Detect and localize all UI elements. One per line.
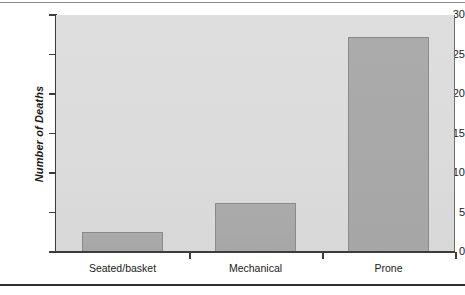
x-axis-tick-mark [189, 252, 191, 259]
x-axis-tick-mark [455, 252, 457, 259]
x-axis-tick-label: Seated/basket [89, 262, 156, 274]
bar [82, 232, 163, 252]
x-axis-tick-label: Mechanical [229, 262, 282, 274]
bar [215, 203, 296, 252]
x-axis-tick-label: Prone [374, 262, 402, 274]
y-axis-title: Number of Deaths [33, 59, 45, 209]
bar-chart-figure: Number of Deaths 051015202530 Seated/bas… [0, 0, 465, 295]
bottom-divider-rule [0, 284, 465, 286]
plot-area [56, 15, 455, 252]
top-divider-rule [0, 2, 465, 3]
bar [348, 37, 429, 252]
x-axis-tick-mark [322, 252, 324, 259]
x-axis-line [55, 251, 455, 253]
